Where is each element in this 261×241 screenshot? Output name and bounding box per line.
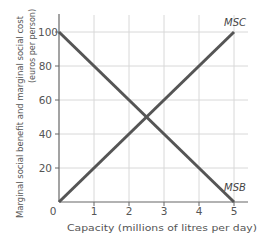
y-tick-60: 60 [39,94,52,106]
y-tick-40: 40 [39,128,52,140]
x-tick-2: 2 [126,205,133,217]
x-tick-1: 1 [91,205,98,217]
msb-label: MSB [224,182,246,193]
x-tick-4: 4 [196,205,203,217]
x-tick-5: 5 [231,205,238,217]
y-axis-sublabel: (euros per person) [26,9,37,83]
x-tick-0: 0 [50,205,57,217]
chart: 20 40 60 80 100 0 1 2 3 4 5 Capacity (mi… [0,0,261,241]
x-tick-3: 3 [161,205,168,217]
y-tick-20: 20 [39,162,52,174]
msc-label: MSC [224,17,246,28]
y-tick-80: 80 [39,60,52,72]
x-axis-label: Capacity (millions of litres per day) [67,222,257,233]
y-tick-100: 100 [38,26,58,38]
y-axis-label: Marginal social benefit and marginal soc… [14,16,25,218]
